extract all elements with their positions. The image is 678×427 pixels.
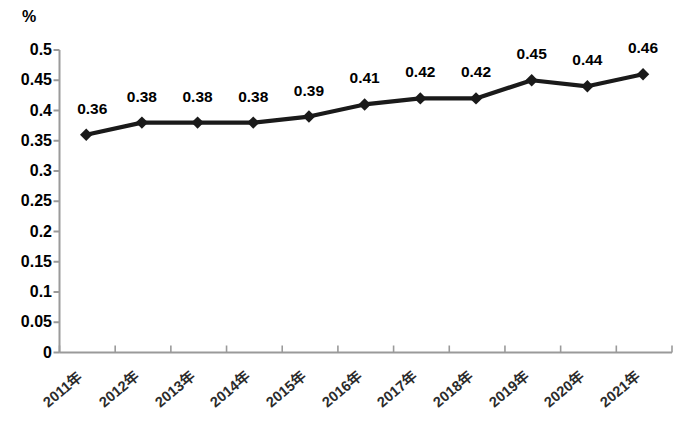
data-point-label: 0.38 [182,89,212,105]
line-chart: % 0.50.450.40.350.30.250.20.150.10.050 0… [0,0,678,427]
data-point-marker [358,98,370,110]
data-point-label: 0.44 [572,52,602,68]
data-point-marker [581,80,593,92]
data-point-marker [136,116,148,128]
data-point-label: 0.39 [294,83,324,99]
data-point-marker [303,110,315,122]
data-point-label: 0.41 [350,70,380,86]
data-point-marker [470,92,482,104]
data-point-marker [525,74,537,86]
x-axis-ticks [60,346,673,353]
data-point-marker [637,68,649,80]
data-point-marker [80,129,92,141]
data-point-marker [247,116,259,128]
data-point-label: 0.38 [127,89,157,105]
data-point-label: 0.42 [405,64,435,80]
data-point-label: 0.46 [628,40,658,56]
data-point-label: 0.36 [77,101,107,117]
data-point-label: 0.45 [517,46,547,62]
data-point-label: 0.42 [461,64,491,80]
data-point-marker [191,116,203,128]
data-point-label: 0.38 [238,89,268,105]
data-point-marker [414,92,426,104]
